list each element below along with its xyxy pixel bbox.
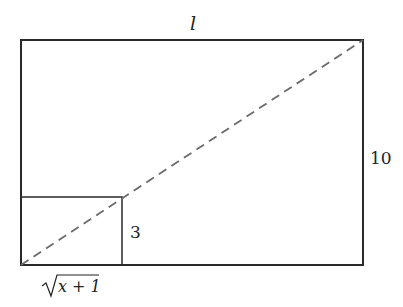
dashed-diagonal — [21, 40, 363, 265]
small-width-label-sqrt: x + 1 — [42, 275, 101, 296]
height-label-10: 10 — [370, 148, 392, 168]
diagram-canvas: l 10 3 x + 1 — [0, 0, 403, 307]
length-label-l: l — [190, 12, 196, 34]
radicand-text: x + 1 — [58, 277, 101, 296]
small-height-label-3: 3 — [130, 222, 141, 242]
